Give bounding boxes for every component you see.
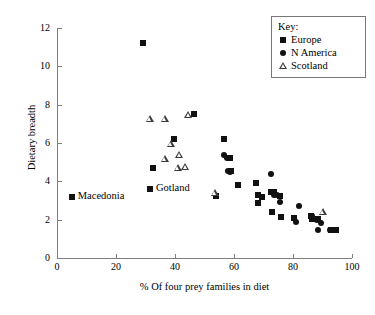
legend: Key: EuropeN AmericaScotland bbox=[271, 16, 366, 78]
data-point-scotland bbox=[175, 151, 183, 158]
x-tick-mark bbox=[234, 254, 235, 258]
data-point-n-america bbox=[224, 155, 230, 161]
data-point-europe bbox=[150, 165, 156, 171]
x-axis-line bbox=[57, 258, 352, 259]
data-point-scotland bbox=[184, 111, 192, 118]
x-tick-mark bbox=[175, 254, 176, 258]
y-tick-mark bbox=[58, 66, 62, 67]
y-tick-label: 12 bbox=[24, 22, 50, 34]
data-point-n-america bbox=[315, 227, 321, 233]
data-point-europe bbox=[255, 200, 261, 206]
legend-label: Scotland bbox=[291, 60, 328, 71]
x-axis-title: % Of four prey families in diet bbox=[57, 281, 352, 292]
legend-marker-icon bbox=[278, 50, 288, 56]
data-point-n-america bbox=[333, 227, 339, 233]
data-point-n-america bbox=[227, 169, 233, 175]
x-tick-label: 100 bbox=[337, 261, 367, 273]
data-point-scotland bbox=[211, 189, 219, 196]
y-tick-mark bbox=[58, 181, 62, 182]
data-point-europe bbox=[259, 194, 265, 200]
data-point-europe bbox=[269, 209, 275, 215]
x-tick-label: 60 bbox=[219, 261, 249, 273]
y-tick-mark bbox=[58, 28, 62, 29]
x-tick-mark bbox=[352, 254, 353, 258]
data-point-n-america bbox=[274, 192, 280, 198]
y-tick-mark bbox=[58, 258, 62, 259]
data-point-scotland bbox=[146, 115, 154, 122]
legend-marker-icon bbox=[278, 62, 288, 69]
data-point-europe bbox=[221, 136, 227, 142]
data-point-scotland bbox=[319, 208, 327, 215]
scatter-chart: 020406080100024681012 MacedoniaGotland %… bbox=[0, 0, 375, 315]
x-tick-label: 80 bbox=[278, 261, 308, 273]
data-point-europe bbox=[140, 40, 146, 46]
data-point-scotland bbox=[167, 140, 175, 147]
data-point-n-america bbox=[293, 219, 299, 225]
y-axis-title: Dietary breadth bbox=[26, 58, 37, 218]
data-point-europe bbox=[69, 194, 75, 200]
legend-item-n-america[interactable]: N America bbox=[278, 46, 360, 59]
data-point-n-america bbox=[318, 220, 324, 226]
data-point-europe bbox=[278, 214, 284, 220]
data-point-europe bbox=[235, 182, 241, 188]
legend-item-scotland[interactable]: Scotland bbox=[278, 59, 360, 72]
data-point-europe bbox=[147, 186, 153, 192]
x-tick-label: 40 bbox=[160, 261, 190, 273]
data-point-n-america bbox=[268, 171, 274, 177]
y-tick-mark bbox=[58, 105, 62, 106]
x-tick-mark bbox=[293, 254, 294, 258]
annotation-gotland: Gotland bbox=[156, 182, 190, 193]
legend-item-europe[interactable]: Europe bbox=[278, 33, 360, 46]
data-point-scotland bbox=[181, 163, 189, 170]
y-tick-label: 0 bbox=[24, 252, 50, 264]
annotation-macedonia: Macedonia bbox=[78, 190, 125, 201]
data-point-scotland bbox=[161, 155, 169, 162]
data-point-europe bbox=[253, 180, 259, 186]
legend-label: N America bbox=[291, 47, 337, 58]
legend-marker-icon bbox=[278, 37, 288, 43]
legend-label: Europe bbox=[291, 34, 321, 45]
y-tick-mark bbox=[58, 143, 62, 144]
data-point-scotland bbox=[161, 115, 169, 122]
x-tick-mark bbox=[116, 254, 117, 258]
data-point-n-america bbox=[277, 199, 283, 205]
data-point-n-america bbox=[296, 203, 302, 209]
legend-title: Key: bbox=[278, 21, 360, 32]
y-tick-mark bbox=[58, 220, 62, 221]
legend-rows: EuropeN AmericaScotland bbox=[278, 33, 360, 72]
x-tick-label: 20 bbox=[101, 261, 131, 273]
